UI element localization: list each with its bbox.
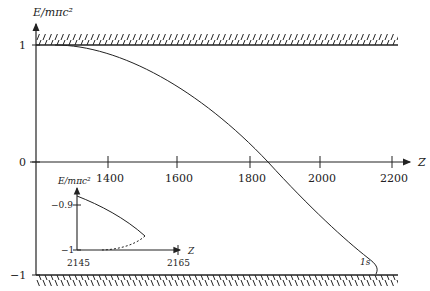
y-tick-neg1: −1 — [10, 269, 26, 282]
x-tick-2200: 2200 — [380, 172, 408, 185]
curve-label-1s: 1s — [360, 257, 371, 267]
x-tick-1400: 1400 — [96, 172, 124, 185]
y-tick-1: 1 — [19, 39, 26, 52]
x-tick-1600: 1600 — [165, 172, 193, 185]
inset-y-label: E/mπc² — [57, 176, 91, 186]
x-axis-label: Z — [417, 156, 426, 169]
1s-curve — [55, 45, 377, 274]
lower-continuum-hatch — [36, 275, 398, 286]
x-tick-1800: 1800 — [238, 172, 266, 185]
inset-x-label: Z — [187, 246, 195, 256]
x-tick-2000: 2000 — [308, 172, 336, 185]
inset-x-tick-2165: 2165 — [167, 258, 190, 268]
y-tick-0: 0 — [19, 156, 26, 169]
inset-y-tick-09: −0.9 — [51, 200, 73, 210]
inset-x-tick-2145: 2145 — [67, 258, 90, 268]
upper-continuum-hatch — [36, 34, 398, 45]
chart: E/mπc² Z 1 0 −1 1400 1600 1800 2000 2200… — [0, 0, 430, 291]
inset-y-tick-1: −1 — [61, 245, 74, 255]
inset-chart: E/mπc² Z −0.9 −1 2145 2165 — [51, 176, 195, 268]
y-axis-label: E/mπc² — [32, 6, 73, 19]
